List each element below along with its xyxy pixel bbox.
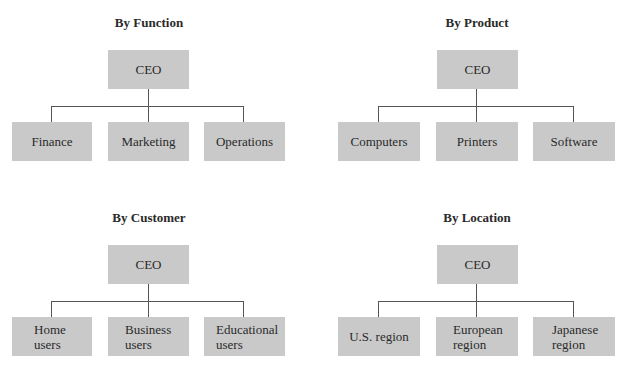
connector bbox=[378, 301, 574, 302]
connector bbox=[51, 301, 52, 317]
node-printers: Printers bbox=[436, 122, 518, 161]
node-educational-users: Educational users bbox=[204, 317, 285, 356]
connector bbox=[573, 301, 574, 317]
connector bbox=[51, 106, 244, 107]
node-computers: Computers bbox=[338, 122, 420, 161]
chart-title-function: By Function bbox=[49, 15, 249, 31]
ceo-box-location: CEO bbox=[437, 245, 518, 284]
ceo-box-product: CEO bbox=[437, 50, 518, 89]
connector bbox=[378, 106, 574, 107]
connector bbox=[573, 106, 574, 122]
node-european-region: European region bbox=[436, 317, 518, 356]
node-business-users: Business users bbox=[108, 317, 189, 356]
connector bbox=[51, 106, 52, 122]
node-software: Software bbox=[533, 122, 615, 161]
node-finance: Finance bbox=[12, 122, 92, 161]
node-japanese-region: Japanese region bbox=[533, 317, 615, 356]
connector bbox=[243, 301, 244, 317]
ceo-box-customer: CEO bbox=[108, 245, 189, 284]
node-home-users: Home users bbox=[12, 317, 92, 356]
connector bbox=[378, 106, 379, 122]
connector bbox=[378, 301, 379, 317]
chart-title-product: By Product bbox=[377, 15, 577, 31]
node-us-region: U.S. region bbox=[338, 317, 420, 356]
connector bbox=[51, 301, 244, 302]
node-marketing: Marketing bbox=[108, 122, 189, 161]
ceo-box-function: CEO bbox=[108, 50, 189, 89]
chart-title-customer: By Customer bbox=[49, 210, 249, 226]
connector bbox=[243, 106, 244, 122]
chart-title-location: By Location bbox=[377, 210, 577, 226]
node-operations: Operations bbox=[204, 122, 285, 161]
